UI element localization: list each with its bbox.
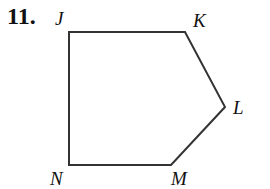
vertex-label-k: K (193, 10, 206, 32)
pentagon-jklmn (69, 32, 225, 165)
vertex-label-j: J (55, 8, 63, 30)
vertex-label-l: L (233, 97, 244, 119)
pentagon-figure (0, 0, 270, 189)
vertex-label-n: N (50, 168, 63, 189)
vertex-label-m: M (171, 168, 187, 189)
